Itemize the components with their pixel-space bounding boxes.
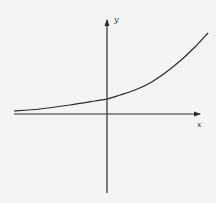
x-axis-label: x <box>197 120 202 129</box>
y-axis-label: y <box>113 15 119 24</box>
exponential-chart: y x <box>0 0 216 203</box>
exponential-curve <box>14 33 208 111</box>
